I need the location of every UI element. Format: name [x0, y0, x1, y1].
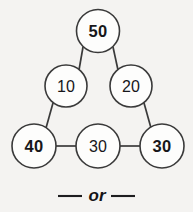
node-bottom-mid[interactable]: 30	[76, 124, 120, 168]
node-label-bottom-right: 30	[153, 137, 172, 155]
number-pyramid-diagram: 50 10 20 40 30 30 or	[0, 0, 193, 212]
or-separator: or	[58, 186, 135, 205]
node-mid-right[interactable]: 20	[110, 65, 152, 107]
or-label: or	[89, 186, 107, 205]
edge-top-to-mid-left	[79, 47, 83, 70]
node-label-mid-right: 20	[122, 78, 140, 95]
node-label-mid-left: 10	[57, 78, 75, 95]
node-top[interactable]: 50	[77, 10, 120, 53]
node-mid-left[interactable]: 10	[45, 65, 87, 107]
node-label-bottom-mid: 30	[89, 138, 107, 155]
node-label-bottom-left: 40	[25, 137, 44, 155]
node-bottom-right[interactable]: 30	[140, 124, 184, 168]
edge-top-to-mid-right	[113, 47, 118, 70]
node-bottom-left[interactable]: 40	[12, 124, 56, 168]
edge-mid-right-to-bottom-right	[144, 103, 151, 128]
diagram-screenshot: 50 10 20 40 30 30 or	[0, 0, 193, 212]
node-label-top: 50	[89, 22, 108, 40]
edge-mid-left-to-bottom-left	[46, 103, 53, 128]
